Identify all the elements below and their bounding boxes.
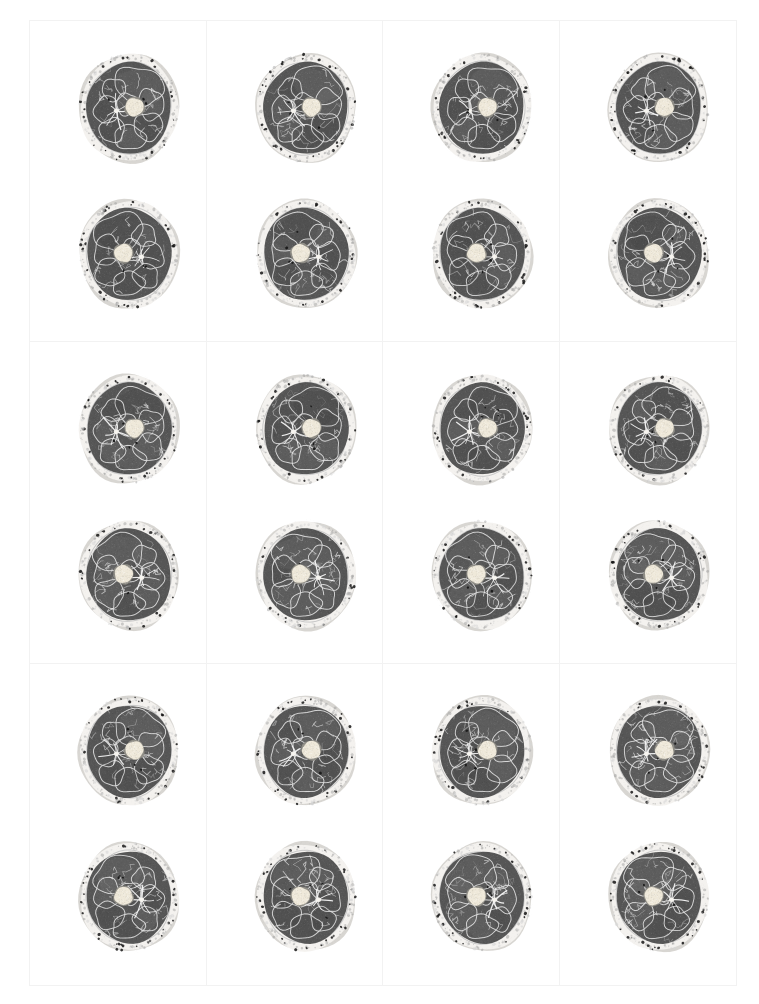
scan-panel[interactable]: a_vm2138 bbox=[30, 342, 207, 663]
ct-slice-image bbox=[600, 45, 718, 171]
ct-slice-image bbox=[423, 45, 541, 171]
ct-slice-image bbox=[70, 45, 188, 171]
scan-panel[interactable]: a_vm2147 bbox=[560, 342, 737, 663]
scan-pair bbox=[64, 688, 194, 960]
scan-panel[interactable]: a_vm2141 bbox=[207, 342, 384, 663]
ct-slice-image bbox=[423, 512, 541, 638]
scan-pair bbox=[417, 366, 547, 638]
scan-panel[interactable]: a_vm2148 bbox=[560, 21, 737, 342]
ct-slice-image bbox=[70, 688, 188, 814]
contact-sheet-grid: a_vm2139a_vm2142a_vm2145a_vm2148a_vm2138… bbox=[29, 20, 737, 986]
scan-panel[interactable]: a_vm2143 bbox=[383, 664, 560, 985]
ct-slice-image bbox=[423, 191, 541, 317]
scan-pair bbox=[241, 688, 371, 960]
ct-slice-image bbox=[247, 191, 365, 317]
scan-pair bbox=[241, 366, 371, 638]
ct-slice-image bbox=[600, 512, 718, 638]
ct-slice-image bbox=[70, 834, 188, 960]
ct-slice-image bbox=[70, 191, 188, 317]
scan-panel[interactable]: a_vm2140 bbox=[207, 664, 384, 985]
ct-slice-image bbox=[600, 366, 718, 492]
scan-panel[interactable]: a_vm2145 bbox=[383, 21, 560, 342]
ct-slice-image bbox=[423, 366, 541, 492]
ct-slice-image bbox=[423, 834, 541, 960]
scan-pair bbox=[417, 688, 547, 960]
ct-slice-image bbox=[247, 512, 365, 638]
scan-panel[interactable]: a_vm2137 bbox=[30, 664, 207, 985]
scan-panel[interactable]: a_vm2144 bbox=[383, 342, 560, 663]
scan-pair bbox=[594, 366, 724, 638]
scan-pair bbox=[594, 688, 724, 960]
scan-panel[interactable]: a_vm2139 bbox=[30, 21, 207, 342]
scan-panel[interactable]: a_vm2146 bbox=[560, 664, 737, 985]
ct-slice-image bbox=[600, 191, 718, 317]
ct-slice-image bbox=[423, 688, 541, 814]
ct-slice-image bbox=[247, 45, 365, 171]
ct-slice-image bbox=[247, 834, 365, 960]
ct-slice-image bbox=[70, 512, 188, 638]
ct-slice-image bbox=[247, 366, 365, 492]
ct-slice-image bbox=[600, 688, 718, 814]
scan-pair bbox=[594, 45, 724, 317]
ct-slice-image bbox=[247, 688, 365, 814]
ct-slice-image bbox=[70, 366, 188, 492]
scan-pair bbox=[241, 45, 371, 317]
scan-pair bbox=[64, 366, 194, 638]
ct-slice-image bbox=[600, 834, 718, 960]
scan-pair bbox=[417, 45, 547, 317]
scan-pair bbox=[64, 45, 194, 317]
scan-panel[interactable]: a_vm2142 bbox=[207, 21, 384, 342]
